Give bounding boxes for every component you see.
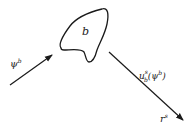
- incident-label: ψb: [10, 57, 22, 69]
- scattered-label-sub: b: [144, 76, 148, 83]
- diagram-graphics: [0, 0, 189, 129]
- scattering-diagram: b ψb usb(ψb) rs: [0, 0, 189, 129]
- scattered-label: usb(ψb): [139, 68, 166, 83]
- incident-label-sup: b: [18, 57, 22, 64]
- body-label: b: [82, 25, 89, 38]
- receiver-label: rs: [160, 112, 168, 124]
- scattered-label-arg-sup: b: [158, 69, 162, 76]
- receiver-label-sup: s: [165, 112, 168, 119]
- incident-label-base: ψ: [10, 58, 18, 69]
- scattered-wave-arrow: [109, 52, 183, 120]
- scattered-label-sup: s: [145, 68, 148, 75]
- body-label-text: b: [82, 25, 89, 38]
